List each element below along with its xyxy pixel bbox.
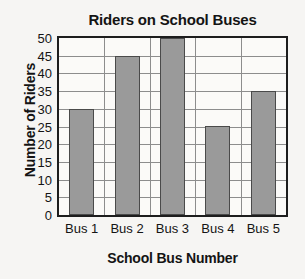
- bar-bus-4: [205, 126, 230, 215]
- x-tick-label: Bus 3: [150, 221, 195, 237]
- gridline-vertical: [241, 38, 242, 215]
- x-tick-label: Bus 2: [104, 221, 149, 237]
- plot-area: [57, 36, 288, 217]
- y-tick-label: 0: [26, 209, 52, 222]
- y-tick-label: 15: [26, 156, 52, 169]
- x-tick-label: Bus 1: [59, 221, 104, 237]
- bar-chart-figure: Riders on School Buses Number of Riders …: [0, 0, 305, 279]
- bar-bus-5: [251, 91, 276, 215]
- chart-title: Riders on School Buses: [57, 11, 288, 28]
- y-tick-label: 10: [26, 174, 52, 187]
- bar-bus-1: [69, 109, 94, 215]
- bar-bus-2: [115, 56, 140, 215]
- y-tick-label: 50: [26, 32, 52, 45]
- y-tick-label: 20: [26, 138, 52, 151]
- y-tick-label: 30: [26, 103, 52, 116]
- bar-bus-3: [160, 38, 185, 215]
- gridline-vertical: [195, 38, 196, 215]
- x-axis-title: School Bus Number: [57, 250, 288, 266]
- y-axis-tick-labels: 05101520253035404550: [22, 36, 52, 217]
- y-tick-label: 45: [26, 50, 52, 63]
- x-tick-label: Bus 5: [241, 221, 286, 237]
- gridline-vertical: [104, 38, 105, 215]
- x-axis-tick-labels: Bus 1Bus 2Bus 3Bus 4Bus 5: [57, 221, 288, 241]
- y-tick-label: 5: [26, 191, 52, 204]
- gridline-vertical: [150, 38, 151, 215]
- x-tick-label: Bus 4: [195, 221, 240, 237]
- y-tick-label: 25: [26, 121, 52, 134]
- y-tick-label: 40: [26, 67, 52, 80]
- plot-inner: [59, 38, 286, 215]
- y-tick-label: 35: [26, 85, 52, 98]
